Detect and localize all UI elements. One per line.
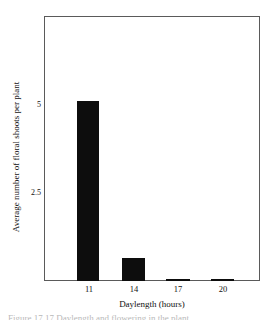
y-tick-label-5: 5 bbox=[0, 101, 41, 109]
x-tick-label-20: 20 bbox=[208, 284, 238, 294]
x-tick-label-11: 11 bbox=[74, 284, 104, 294]
y-axis-title: Average number of floral shoots per plan… bbox=[11, 57, 21, 257]
figure-container: Average number of floral shoots per plan… bbox=[0, 0, 278, 320]
bar-11-hours bbox=[77, 101, 99, 281]
y-tick-label-2point5: 2.5 bbox=[0, 189, 41, 197]
plot-area bbox=[45, 17, 259, 281]
figure-caption-fragment: Figure 17.17 Daylength and flowering in … bbox=[8, 313, 278, 320]
bar-14-hours bbox=[122, 258, 145, 281]
x-tick-label-17: 17 bbox=[163, 284, 193, 294]
bar-17-hours bbox=[166, 279, 190, 281]
bar-20-hours bbox=[211, 279, 234, 281]
x-axis-title: Daylength (hours) bbox=[44, 299, 260, 310]
x-tick-label-14: 14 bbox=[119, 284, 149, 294]
